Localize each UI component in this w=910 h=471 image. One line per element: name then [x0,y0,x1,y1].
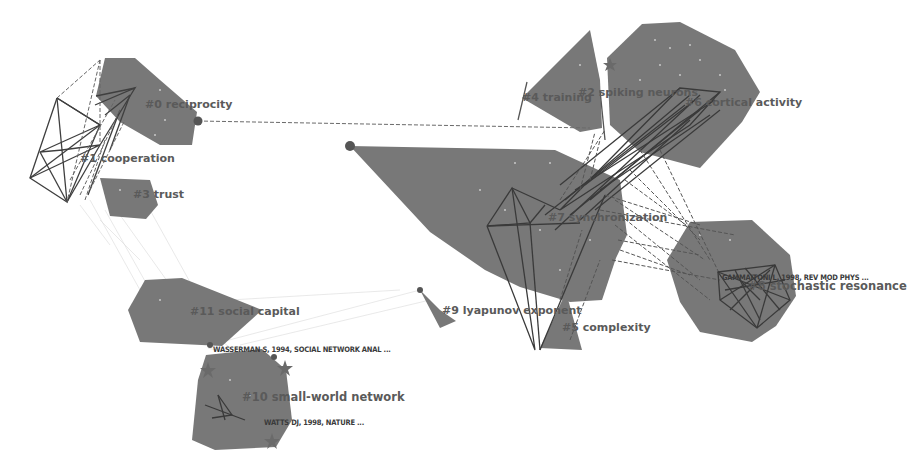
node-small-world[interactable] [271,354,277,360]
cluster-label-spiking-neurons[interactable]: #2 spiking neurons [578,86,698,99]
cluster-label-reciprocity[interactable]: #0 reciprocity [145,98,232,111]
reference-label-gammaitoni[interactable]: GAMMAITONI L, 1998, REV MOD PHYS ... [722,273,869,282]
cluster-label-complexity[interactable]: #5 complexity [562,321,651,334]
cluster-label-lyapunov-exponent[interactable]: #9 lyapunov exponent [442,304,582,317]
node-lyapunov[interactable] [417,287,423,293]
cluster-label-synchronization[interactable]: #7 synchronization [548,211,667,224]
cluster-label-trust[interactable]: #3 trust [133,188,184,201]
cluster-label-cortical-activity[interactable]: #6 cortical activity [685,96,802,109]
node-reciprocity[interactable] [194,117,203,126]
reference-label-watts[interactable]: WATTS DJ, 1998, NATURE ... [264,418,364,427]
node-synchronization[interactable] [345,141,355,151]
cluster-label-social-capital[interactable]: #11 social capital [190,305,300,318]
cluster-label-small-world-network[interactable]: #10 small-world network [242,390,405,404]
cluster-label-cooperation[interactable]: #1 cooperation [80,152,175,165]
reference-label-wasserman[interactable]: WASSERMAN S, 1994, SOCIAL NETWORK ANAL .… [213,345,391,354]
cluster-network-canvas: #0 reciprocity #1 cooperation #3 trust #… [0,0,910,471]
